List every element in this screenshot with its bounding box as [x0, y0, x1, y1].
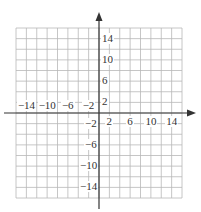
x-tick-label: −2 — [82, 100, 96, 111]
x-tick-label: 6 — [126, 116, 134, 127]
y-tick-label: −2 — [84, 118, 98, 129]
x-tick-label: 2 — [105, 116, 113, 127]
x-axis-arrow-icon — [187, 110, 196, 117]
y-tick-label: 10 — [101, 54, 114, 65]
y-axis-arrow-icon — [96, 12, 103, 21]
y-tick-label: 2 — [101, 96, 109, 107]
y-tick-label: 6 — [101, 75, 109, 86]
x-tick-label: −10 — [38, 100, 57, 111]
x-tick-label: 10 — [144, 116, 157, 127]
y-tick-label: −6 — [84, 139, 98, 150]
y-tick-label: −10 — [79, 160, 98, 171]
y-tick-label: −14 — [79, 181, 98, 192]
x-tick-label: 14 — [165, 116, 178, 127]
y-tick-label: 14 — [101, 33, 114, 44]
x-tick-label: −6 — [61, 100, 75, 111]
x-tick-label: −14 — [17, 100, 36, 111]
